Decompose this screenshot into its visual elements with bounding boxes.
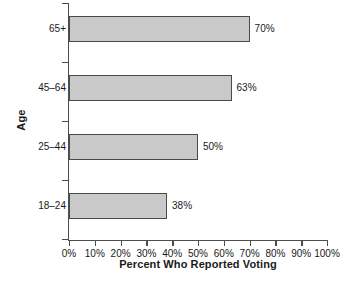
bar-4564 <box>69 75 232 101</box>
x-tick-mark <box>327 241 328 246</box>
y-tick-mark <box>62 239 68 240</box>
x-tick-mark <box>198 241 199 246</box>
y-tick-label: 45–64 <box>6 82 66 94</box>
bar-chart: Age 70%65+63%45–6450%25–4438%18–240%10%2… <box>0 0 350 282</box>
x-tick-mark <box>275 241 276 246</box>
y-tick-label: 65+ <box>6 23 66 35</box>
bar-value-label: 38% <box>172 200 192 212</box>
bar-2544 <box>69 134 198 160</box>
bar-value-label: 50% <box>203 141 223 153</box>
x-tick-mark <box>172 241 173 246</box>
y-tick-mark <box>62 180 68 181</box>
x-tick-mark <box>69 241 70 246</box>
y-tick-mark <box>62 62 68 63</box>
y-tick-label: 18–24 <box>6 200 66 212</box>
bar-value-label: 70% <box>255 23 275 35</box>
bar-value-label: 63% <box>237 82 257 94</box>
y-tick-label: 25–44 <box>6 141 66 153</box>
x-tick-mark <box>121 241 122 246</box>
x-axis-title: Percent Who Reported Voting <box>69 258 327 270</box>
x-tick-mark <box>95 241 96 246</box>
x-tick-mark <box>250 241 251 246</box>
x-tick-mark <box>224 241 225 246</box>
bar-65+ <box>69 16 250 42</box>
y-tick-mark <box>62 3 68 4</box>
y-tick-mark <box>62 121 68 122</box>
x-tick-mark <box>146 241 147 246</box>
x-tick-mark <box>301 241 302 246</box>
bar-1824 <box>69 193 167 219</box>
